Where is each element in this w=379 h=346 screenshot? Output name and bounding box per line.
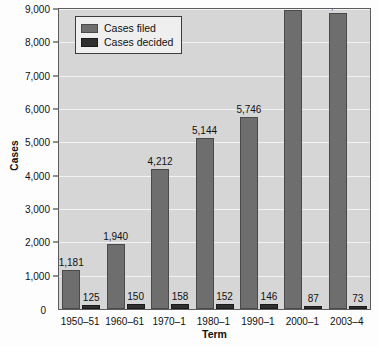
y-tick-label: 7,000	[4, 70, 50, 81]
legend-label: Cases decided	[104, 36, 173, 48]
plot-area: 1,1811251,9401504,2121585,1441525,746146…	[58, 8, 371, 310]
x-tick-label: 2003–4	[330, 316, 363, 327]
bar-label-cases-decided: 158	[165, 291, 195, 302]
x-tick-label: 2000–1	[286, 316, 319, 327]
bar-cases-filed[interactable]	[151, 169, 169, 309]
bar-label-cases-filed: 1,940	[99, 231, 133, 242]
bar-label-cases-filed: 5,746	[232, 104, 266, 115]
y-tick-label: 3,000	[4, 204, 50, 215]
bar-cases-decided[interactable]	[82, 305, 100, 309]
bar-cases-filed[interactable]	[62, 270, 80, 309]
legend-item[interactable]: Cases filed	[81, 21, 173, 35]
x-axis-title: Term	[58, 328, 371, 340]
y-tick-label: 8,000	[4, 37, 50, 48]
bar-group: 5,144152	[196, 9, 234, 309]
bar-label-cases-filed: 4,212	[143, 156, 177, 167]
x-tick-label: 1950–51	[61, 316, 100, 327]
bar-group: 4,212158	[151, 9, 189, 309]
x-tick-label: 1970–1	[152, 316, 185, 327]
y-tick-label: 4,000	[4, 170, 50, 181]
bar-cases-decided[interactable]	[260, 304, 278, 309]
y-tick-label: 6,000	[4, 104, 50, 115]
bar-label-cases-decided: 152	[210, 291, 240, 302]
bar-cases-filed[interactable]	[196, 138, 214, 309]
bar-cases-filed[interactable]	[329, 13, 347, 309]
chart-legend: Cases filedCases decided	[75, 16, 182, 54]
y-axis-tick-labels: 1,0002,0003,0004,0005,0006,0007,0008,000…	[0, 0, 58, 346]
bar-cases-filed[interactable]	[240, 117, 258, 309]
legend-swatch-decided-icon	[81, 38, 98, 47]
bar-label-cases-decided: 150	[121, 291, 151, 302]
bar-group: 8,96587	[284, 9, 322, 309]
legend-item[interactable]: Cases decided	[81, 35, 173, 49]
bar-label-cases-filed: 5,144	[188, 125, 222, 136]
legend-label: Cases filed	[104, 22, 156, 34]
bar-group: 5,746146	[240, 9, 278, 309]
bar-label-cases-filed: 8,883	[321, 8, 355, 11]
bar-cases-filed[interactable]	[284, 10, 302, 309]
bar-cases-decided[interactable]	[304, 306, 322, 309]
bar-group: 8,88373	[329, 9, 367, 309]
y-tick-label: 2,000	[4, 237, 50, 248]
legend-swatch-filed-icon	[81, 24, 98, 33]
y-tick-label-zero: 0	[30, 305, 46, 316]
y-tick-label: 9,000	[4, 4, 50, 15]
bar-cases-decided[interactable]	[127, 304, 145, 309]
bar-group: 1,181125	[62, 9, 100, 309]
bar-label-cases-decided: 73	[343, 293, 371, 304]
bar-chart: Cases 1,0002,0003,0004,0005,0006,0007,00…	[0, 0, 379, 346]
x-tick-label: 1990–1	[241, 316, 274, 327]
bars-layer: 1,1811251,9401504,2121585,1441525,746146…	[59, 9, 370, 309]
x-axis-tick-labels: 1950–511960–611970–11980–11990–12000–120…	[58, 310, 371, 330]
x-tick-label: 1980–1	[197, 316, 230, 327]
y-tick-label: 1,000	[4, 270, 50, 281]
bar-group: 1,940150	[107, 9, 145, 309]
bar-cases-decided[interactable]	[216, 304, 234, 309]
bar-label-cases-decided: 146	[254, 291, 284, 302]
bar-label-cases-decided: 125	[76, 292, 106, 303]
bar-cases-decided[interactable]	[349, 306, 367, 309]
bar-label-cases-decided: 87	[298, 293, 328, 304]
bar-label-cases-filed: 1,181	[58, 257, 88, 268]
y-tick-label: 5,000	[4, 137, 50, 148]
x-tick-label: 1960–61	[105, 316, 144, 327]
bar-cases-decided[interactable]	[171, 304, 189, 309]
